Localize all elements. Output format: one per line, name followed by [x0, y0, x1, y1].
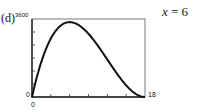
axes [32, 19, 145, 97]
plot-frame [32, 19, 145, 97]
data-curve [32, 22, 145, 97]
plot-area [0, 0, 197, 112]
